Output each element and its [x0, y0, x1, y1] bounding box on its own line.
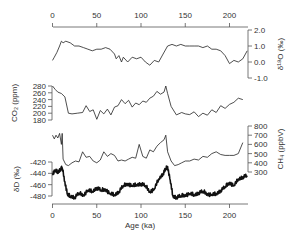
top-x-tick-label: 0 [50, 11, 55, 20]
paleoclimate-chart: 050100150200 2.01.00.0-1.0 δ¹⁸O (‰) 2802… [0, 0, 295, 241]
y-tick-label: 500 [254, 150, 268, 159]
dd-axis-label: δD (‰) [12, 166, 21, 192]
d18o-series-line [53, 41, 248, 65]
y-tick-label: 800 [254, 122, 268, 131]
bottom-x-axis: 050100150200 Age (ka) [50, 204, 248, 230]
top-x-axis: 050100150200 [50, 11, 248, 27]
y-tick-label: 2.0 [254, 26, 266, 35]
bottom-x-tick-label: 0 [50, 211, 55, 220]
y-tick-label: -420 [30, 158, 47, 167]
d18o-axis-label: δ¹⁸O (‰) [276, 38, 285, 71]
y-tick-label: 300 [254, 168, 268, 177]
top-x-tick-label: 150 [179, 11, 193, 20]
co2-axis: 280260240220200180 CO₂ (ppm) [10, 82, 52, 125]
y-tick-label: 0.0 [254, 58, 266, 67]
bottom-x-tick-label: 50 [92, 211, 101, 220]
bottom-x-tick-label: 100 [134, 211, 148, 220]
co2-axis-label: CO₂ (ppm) [10, 84, 19, 123]
y-tick-label: -1.0 [254, 74, 268, 83]
y-tick-label: -440 [30, 169, 47, 178]
ch4-series-line [53, 133, 243, 165]
ch4-axis: 800700600500400300 CH₄ (ppbV) [248, 122, 285, 177]
top-x-tick-label: 200 [223, 11, 237, 20]
y-tick-label: 180 [33, 116, 47, 125]
co2-series-line [53, 86, 243, 119]
y-tick-label: 1.0 [254, 42, 266, 51]
dd-series-line [53, 166, 248, 199]
bottom-x-tick-label: 200 [223, 211, 237, 220]
x-axis-label: Age (ka) [125, 221, 156, 230]
bottom-x-tick-label: 150 [179, 211, 193, 220]
y-tick-label: 700 [254, 131, 268, 140]
y-tick-label: -480 [30, 192, 47, 201]
y-tick-label: -460 [30, 181, 47, 190]
dd-axis: -420-440-460-480 δD (‰) [12, 158, 52, 201]
top-x-tick-label: 100 [134, 11, 148, 20]
y-tick-label: 600 [254, 140, 268, 149]
ch4-axis-label: CH₄ (ppbV) [276, 128, 285, 169]
y-tick-label: 400 [254, 159, 268, 168]
top-x-tick-label: 50 [92, 11, 101, 20]
d18o-axis: 2.01.00.0-1.0 δ¹⁸O (‰) [248, 26, 285, 83]
